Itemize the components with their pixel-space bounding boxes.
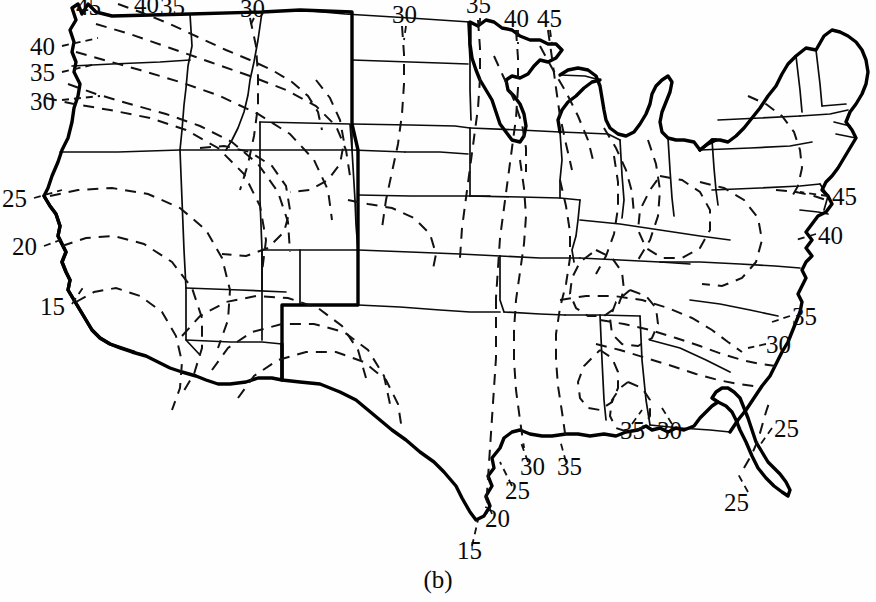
label-leader-lines bbox=[34, 18, 828, 546]
contour-label-top-30-b: 30 bbox=[392, 2, 417, 27]
contour-label-left-40: 40 bbox=[30, 34, 55, 59]
contour-label-right-35: 35 bbox=[792, 304, 817, 329]
contour-label-texas-25: 25 bbox=[505, 478, 530, 503]
contour-label-texas-15: 15 bbox=[457, 538, 482, 563]
contour-label-texas-30: 30 bbox=[520, 454, 545, 479]
contour-label-top-35-b: 35 bbox=[466, 0, 491, 17]
figure-caption: (b) bbox=[0, 566, 876, 594]
contour-label-gulf-35: 35 bbox=[620, 418, 645, 443]
contour-label-top-35-a: 35 bbox=[160, 0, 185, 19]
contour-isolines bbox=[46, 4, 826, 508]
contour-label-left-30: 30 bbox=[30, 89, 55, 114]
contour-map-figure: 45 40 35 30 30 35 40 45 40 35 30 25 20 1… bbox=[0, 0, 876, 602]
contour-label-left-25: 25 bbox=[2, 186, 27, 211]
contour-label-right-40: 40 bbox=[818, 223, 843, 248]
state-boundaries bbox=[60, 10, 856, 432]
contour-label-top-45: 45 bbox=[76, 0, 101, 19]
contour-label-top-40-clip: 40 bbox=[134, 0, 159, 17]
contour-label-top-30-a: 30 bbox=[240, 0, 265, 21]
contour-label-texas-35: 35 bbox=[557, 454, 582, 479]
national-coastline bbox=[44, 4, 868, 520]
contour-label-right-30: 30 bbox=[766, 332, 791, 357]
contour-label-gulf-30: 30 bbox=[657, 418, 682, 443]
contour-label-left-20: 20 bbox=[12, 234, 37, 259]
contour-label-texas-20: 20 bbox=[485, 506, 510, 531]
contour-label-southeast-25: 25 bbox=[774, 416, 799, 441]
contour-label-florida-25: 25 bbox=[724, 490, 749, 515]
contour-label-left-15: 15 bbox=[40, 294, 65, 319]
map-canvas: 45 40 35 30 30 35 40 45 40 35 30 25 20 1… bbox=[0, 0, 876, 602]
contour-label-top-45-b: 45 bbox=[537, 6, 562, 31]
contour-label-top-40: 40 bbox=[504, 6, 529, 31]
contour-label-right-45: 45 bbox=[832, 184, 857, 209]
contour-label-left-35: 35 bbox=[30, 60, 55, 85]
